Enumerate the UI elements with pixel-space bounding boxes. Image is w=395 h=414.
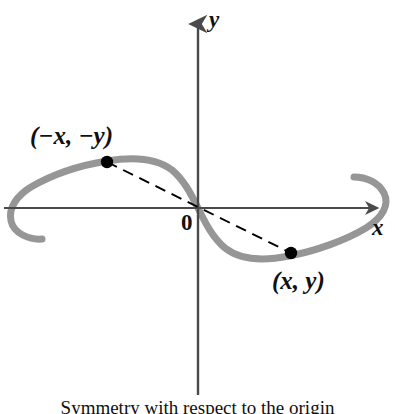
graph-canvas: [0, 0, 395, 414]
origin-label: 0: [181, 211, 193, 234]
point-marker-neg: [101, 156, 113, 168]
point-marker-pos: [285, 247, 297, 259]
point-label-positive: (x, y): [272, 268, 325, 293]
y-axis-label: y: [209, 8, 219, 31]
figure-caption: Symmetry with respect to the origin: [0, 398, 395, 414]
point-label-negative: (−x, −y): [30, 123, 113, 148]
x-axis-label: x: [372, 216, 384, 239]
symmetry-figure: y x 0 (−x, −y) (x, y) Symmetry with resp…: [0, 0, 395, 414]
